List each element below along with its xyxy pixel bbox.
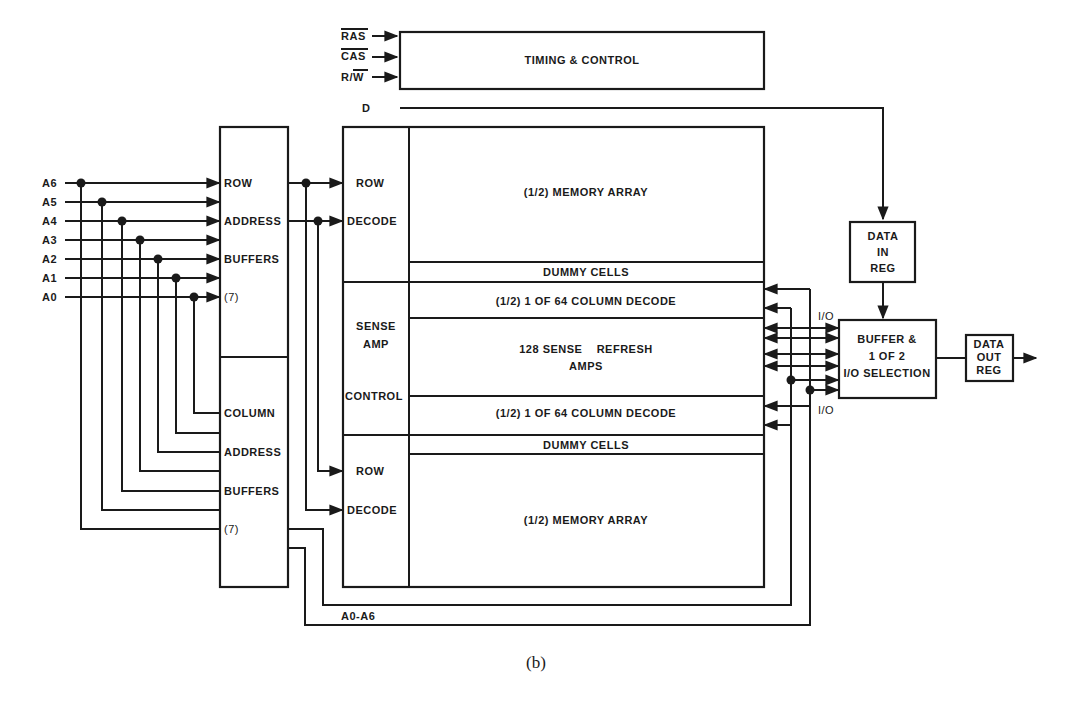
row-decode-top-line2: DECODE [347,215,397,227]
top-memory-array: (1/2) MEMORY ARRAY [524,186,648,198]
dram-block-diagram: RAS CAS R/W D TIMING & CONTROL A6 A5 A4 … [0,0,1073,708]
sense-amp-line2: AMP [363,338,389,350]
bottom-memory-array: (1/2) MEMORY ARRAY [524,514,648,526]
bottom-column-decode: (1/2) 1 OF 64 COLUMN DECODE [496,407,676,419]
io-top-label: I/O [818,310,834,322]
pin-a2: A2 [42,253,57,265]
row-decode-bottom-line1: ROW [356,465,385,477]
data-in-line1: DATA [868,230,899,242]
pin-a0: A0 [42,291,57,303]
rw-label: R/W [341,71,364,83]
timing-control-label: TIMING & CONTROL [525,54,640,66]
timing-control-block: TIMING & CONTROL [400,32,764,89]
ras-label: RAS [341,30,366,42]
sense-refresh-amps-line2: AMPS [569,360,603,372]
col-buffers-line1: COLUMN [224,407,275,419]
row-address-wiring [288,179,342,511]
io-selection-block: BUFFER & 1 OF 2 I/O SELECTION [839,320,966,398]
row-buffers-line3: BUFFERS [224,253,279,265]
sense-amp-line1: SENSE [356,320,396,332]
pin-a4: A4 [42,215,57,227]
memory-array-block: ROW DECODE SENSE AMP CONTROL ROW DECODE … [343,127,764,587]
pin-a3: A3 [42,234,57,246]
io-bottom-label: I/O [818,404,834,416]
col-buffers-count: (7) [224,523,239,535]
row-buffers-line2: ADDRESS [224,215,281,227]
data-out-reg-block: DATA OUT REG [966,335,1036,381]
row-decode-bottom-line2: DECODE [347,504,397,516]
row-buffers-count: (7) [224,291,239,303]
data-in-line3: REG [870,262,895,274]
col-buffers-line2: ADDRESS [224,446,281,458]
d-input-line [400,108,883,219]
data-out-line3: REG [976,364,1001,376]
io-selection-line1: BUFFER & [857,333,917,345]
cas-label: CAS [341,50,366,62]
sense-amp-line3: CONTROL [345,390,403,402]
io-selection-line2: 1 OF 2 [869,350,906,362]
row-buffers-line1: ROW [224,177,253,189]
data-out-line2: OUT [977,351,1002,363]
top-dummy-cells: DUMMY CELLS [543,266,629,278]
data-out-line1: DATA [974,338,1005,350]
d-label: D [362,102,370,114]
sense-refresh-amps-line1: 128 SENSE REFRESH [519,343,653,355]
address-pins: A6 A5 A4 A3 A2 A1 A0 [42,177,220,529]
pin-a1: A1 [42,272,57,284]
data-in-line2: IN [877,246,889,258]
col-buffers-line3: BUFFERS [224,485,279,497]
figure-caption: (b) [526,653,546,672]
address-buffers-block: ROW ADDRESS BUFFERS (7) COLUMN ADDRESS B… [220,127,288,587]
address-bus-label: A0-A6 [341,610,375,622]
data-in-reg-block: DATA IN REG [850,222,915,318]
row-decode-top-line1: ROW [356,177,385,189]
pin-a6: A6 [42,177,57,189]
bottom-dummy-cells: DUMMY CELLS [543,439,629,451]
io-selection-line3: I/O SELECTION [843,367,930,379]
top-column-decode: (1/2) 1 OF 64 COLUMN DECODE [496,295,676,307]
pin-a5: A5 [42,196,57,208]
io-wiring: I/O I/O [765,289,838,425]
